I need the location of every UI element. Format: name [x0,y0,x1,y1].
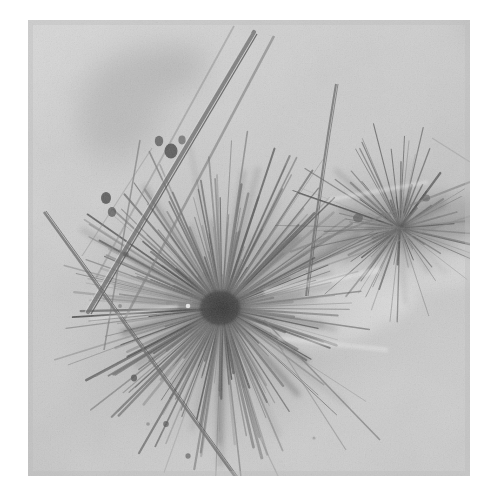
film-grain [28,20,470,476]
micrograph-figure [28,20,470,476]
page-root: Brightfield photomicrograph of acicular … [0,0,482,494]
micrograph-canvas [28,20,470,476]
